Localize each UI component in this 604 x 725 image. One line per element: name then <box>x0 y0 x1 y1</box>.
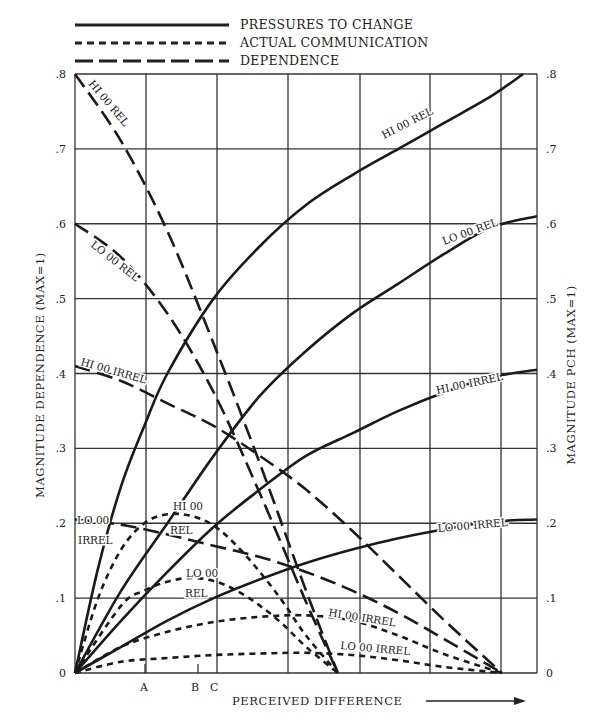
y-tick-right: .7 <box>546 143 557 156</box>
y-tick-left: .1 <box>56 592 67 605</box>
y-tick-left: .2 <box>56 517 67 530</box>
y-ticks-right: .8.7.6.5.4.3.2.10 <box>546 68 557 680</box>
curve-label: REL <box>185 587 208 599</box>
y-tick-left: 0 <box>59 667 66 680</box>
y-tick-right: 0 <box>546 667 553 680</box>
marker-a: A <box>139 681 149 694</box>
curve-label: LO 00 <box>77 514 109 526</box>
legend: PRESSURES TO CHANGE ACTUAL COMMUNICATION… <box>75 17 429 68</box>
y-tick-right: .5 <box>546 293 557 306</box>
y-tick-right: .1 <box>546 592 557 605</box>
x-axis-arrow <box>426 697 526 705</box>
y-tick-left: .4 <box>56 368 67 381</box>
left-axis-label: MAGNITUDE DEPENDENCE (MAX=1) <box>33 252 47 498</box>
curve-label: HI 00 <box>173 500 203 512</box>
y-tick-left: .6 <box>56 218 67 231</box>
curve-label: LO 00 IRREL <box>437 516 508 534</box>
curve-label: HI 00 IRREL <box>328 606 397 628</box>
y-tick-right: .4 <box>546 368 557 381</box>
legend-label-communication: ACTUAL COMMUNICATION <box>239 35 429 50</box>
legend-label-dependence: DEPENDENCE <box>240 53 339 68</box>
y-tick-left: .7 <box>56 143 67 156</box>
marker-b: B <box>191 681 199 694</box>
curve-label: HI 00 REL <box>379 105 434 141</box>
y-tick-left: .8 <box>56 68 67 81</box>
curve-label: LO 00 <box>186 567 218 579</box>
curve-label: IRREL <box>78 534 113 546</box>
y-tick-right: .8 <box>546 68 557 81</box>
y-tick-left: .5 <box>56 293 67 306</box>
y-tick-right: .3 <box>546 442 557 455</box>
right-axis-label: MAGNITUDE PCH (MAX=1) <box>564 285 578 465</box>
x-axis-label: PERCEIVED DIFFERENCE <box>232 694 403 708</box>
y-tick-right: .2 <box>546 517 557 530</box>
y-ticks-left: .8.7.6.5.4.3.2.10 <box>56 68 67 680</box>
curve-label: LO 00 REL <box>89 238 142 283</box>
curve-label: LO 00 REL <box>441 216 500 247</box>
chart: PRESSURES TO CHANGE ACTUAL COMMUNICATION… <box>0 0 604 725</box>
curve-label: REL <box>170 524 193 536</box>
legend-label-pressures: PRESSURES TO CHANGE <box>240 17 413 32</box>
x-markers: A B C <box>139 664 218 694</box>
y-tick-left: .3 <box>56 442 67 455</box>
marker-c: C <box>210 681 218 694</box>
y-tick-right: .6 <box>546 218 557 231</box>
